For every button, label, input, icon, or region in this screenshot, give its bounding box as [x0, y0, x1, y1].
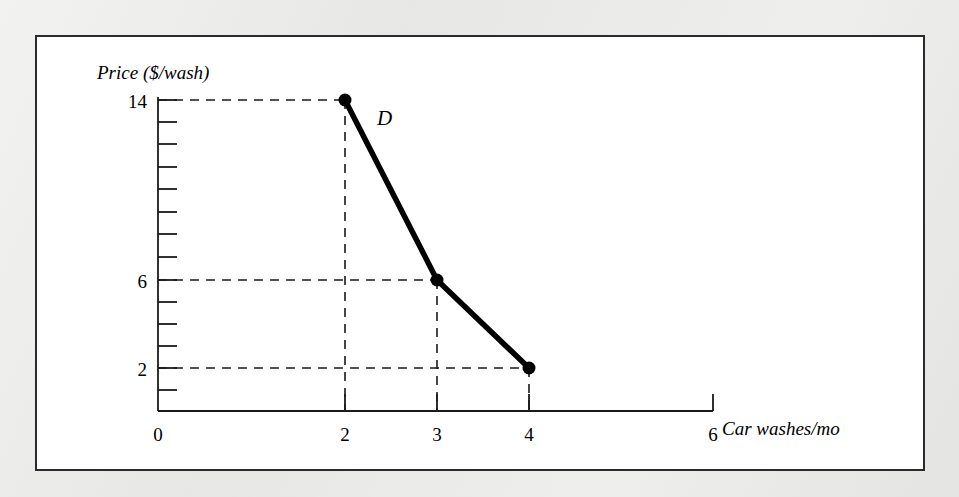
chart-plot-svg [37, 37, 923, 469]
x-tick-label-6: 6 [696, 424, 730, 446]
y-axis-title: Price ($/wash) [97, 63, 209, 82]
data-point-3-6 [431, 274, 444, 287]
figure-frame: Price ($/wash) Car washes/mo D 14 6 2 0 … [35, 35, 925, 471]
x-axis [158, 394, 713, 411]
x-tick-label-2: 2 [328, 424, 362, 446]
x-tick-label-0: 0 [141, 424, 175, 446]
demand-curve-line [345, 100, 529, 368]
y-axis [158, 97, 177, 411]
y-tick-label-6: 6 [107, 271, 147, 293]
y-axis-ticks [158, 100, 177, 390]
x-axis-ticks [345, 394, 713, 411]
demand-curve-chart: Price ($/wash) Car washes/mo D 14 6 2 0 … [37, 37, 923, 469]
x-axis-title: Car washes/mo [722, 419, 840, 438]
x-tick-label-3: 3 [420, 424, 454, 446]
data-point-2-14 [339, 94, 352, 107]
data-point-4-2 [523, 362, 536, 375]
y-tick-label-2: 2 [107, 359, 147, 381]
x-tick-label-4: 4 [512, 424, 546, 446]
guide-lines [158, 100, 529, 411]
demand-curve-label: D [377, 108, 392, 129]
y-tick-label-14: 14 [107, 91, 147, 113]
